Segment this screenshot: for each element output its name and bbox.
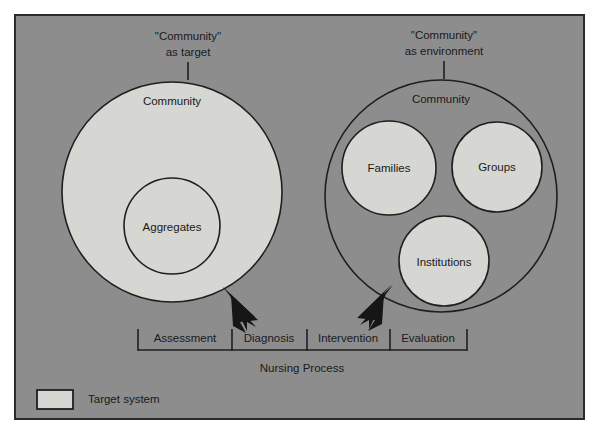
legend-swatch [37,390,73,409]
right-panel-group: "Community" as environment Community Fam… [325,29,557,331]
process-title: Nursing Process [260,362,345,374]
groups-label: Groups [478,161,516,173]
families-label: Families [368,162,411,174]
right-caption-line2: as environment [405,45,484,57]
left-community-label: Community [143,95,201,107]
right-community-label: Community [412,93,470,105]
nursing-process-bar: Assessment Diagnosis Intervention Evalua… [138,329,467,374]
aggregates-label: Aggregates [143,221,202,233]
process-step-assessment: Assessment [154,332,217,344]
left-panel-group: "Community" as target Community Aggregat… [62,30,282,333]
figure-canvas: "Community" as target Community Aggregat… [0,0,602,437]
institutions-label: Institutions [417,256,472,268]
left-arrow-to-diagnosis [222,286,258,333]
legend-label: Target system [88,393,160,405]
left-caption-line2: as target [166,46,212,58]
diagram-svg: "Community" as target Community Aggregat… [0,0,602,437]
process-step-evaluation: Evaluation [401,332,455,344]
process-step-intervention: Intervention [318,332,378,344]
legend: Target system [37,390,160,409]
process-step-diagnosis: Diagnosis [244,332,295,344]
left-caption-line1: "Community" [155,30,221,42]
right-caption-line1: "Community" [411,29,477,41]
